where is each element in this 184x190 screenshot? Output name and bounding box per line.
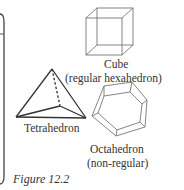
figure-12-2: Cube (regular hexahedron) Tetrahedron <box>0 0 184 190</box>
figure-caption: Figure 12.2 <box>13 172 69 187</box>
octahedron-label-line2: (non-regular) <box>87 157 148 169</box>
octahedron-sublabel: (non-regular) <box>87 157 148 170</box>
octahedron-label: Octahedron <box>90 143 144 156</box>
octahedron-label-line1: Octahedron <box>90 143 144 155</box>
